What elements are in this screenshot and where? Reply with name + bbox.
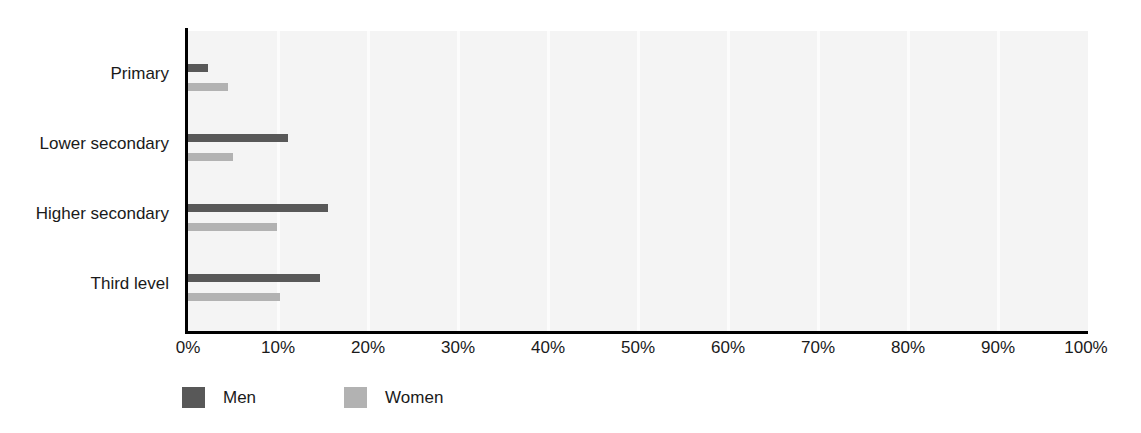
bar-women-primary <box>188 83 228 91</box>
x-tick-50: 50% <box>621 338 655 358</box>
category-label-third-level: Third level <box>0 275 169 292</box>
x-tick-20: 20% <box>351 338 385 358</box>
gridline-50 <box>637 31 640 331</box>
x-axis-line <box>185 331 1088 334</box>
bar-women-third-level <box>188 293 280 301</box>
category-label-higher-secondary: Higher secondary <box>0 205 169 222</box>
x-axis-tick-labels: 0% 10% 20% 30% 40% 50% 60% 70% 80% 90% 1… <box>0 338 1141 362</box>
x-tick-30: 30% <box>441 338 475 358</box>
men-swatch-icon <box>182 387 205 408</box>
category-label-lower-secondary: Lower secondary <box>0 135 169 152</box>
gridline-20 <box>367 31 370 331</box>
bar-men-third-level <box>188 274 320 282</box>
legend-item-women: Women <box>344 387 443 408</box>
gridline-60 <box>727 31 730 331</box>
legend-label-men: Men <box>223 389 256 406</box>
category-label-primary: Primary <box>0 65 169 82</box>
women-swatch-icon <box>344 387 367 408</box>
chart-legend: Men Women <box>182 386 443 408</box>
x-tick-70: 70% <box>801 338 835 358</box>
legend-label-women: Women <box>385 389 443 406</box>
bar-men-higher-secondary <box>188 204 328 212</box>
y-axis-line <box>185 28 188 334</box>
bar-men-primary <box>188 64 208 72</box>
category-axis-labels: Primary Lower secondary Higher secondary… <box>0 31 177 331</box>
bar-men-lower-secondary <box>188 134 288 142</box>
x-tick-90: 90% <box>981 338 1015 358</box>
bar-women-lower-secondary <box>188 153 233 161</box>
x-tick-10: 10% <box>261 338 295 358</box>
x-tick-40: 40% <box>531 338 565 358</box>
gridline-70 <box>817 31 820 331</box>
x-tick-60: 60% <box>711 338 745 358</box>
plot-area <box>188 31 1088 331</box>
gridline-90 <box>997 31 1000 331</box>
bar-chart: Primary Lower secondary Higher secondary… <box>0 0 1141 433</box>
gridline-40 <box>547 31 550 331</box>
gridline-30 <box>457 31 460 331</box>
legend-item-men: Men <box>182 387 256 408</box>
gridline-10 <box>277 31 280 331</box>
x-tick-100: 100% <box>1064 338 1107 358</box>
gridline-80 <box>907 31 910 331</box>
bar-women-higher-secondary <box>188 223 277 231</box>
x-tick-0: 0% <box>176 338 201 358</box>
x-tick-80: 80% <box>891 338 925 358</box>
